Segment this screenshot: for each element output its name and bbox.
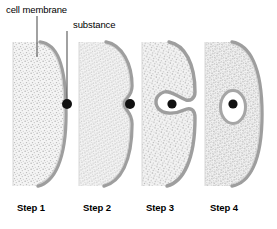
substance-particle-step-3 <box>167 99 176 108</box>
cell-step-4 <box>205 42 262 186</box>
step-1-caption: Step 1 <box>17 202 45 213</box>
step-4-caption: Step 4 <box>210 202 238 213</box>
step-3-caption: Step 3 <box>146 202 174 213</box>
substance-particle-step-4 <box>228 99 237 108</box>
cell-step-1 <box>13 42 66 186</box>
cell-step-2 <box>79 42 132 186</box>
endocytosis-diagram: cell membrane substance Step 1 Step 2 St… <box>0 0 277 229</box>
cell-step-3 <box>142 42 195 186</box>
step-2-caption: Step 2 <box>83 202 111 213</box>
substance-particle-step-1 <box>62 99 72 109</box>
cell-membrane-label: cell membrane <box>6 4 67 15</box>
substance-label: substance <box>73 19 115 30</box>
substance-particle-step-2 <box>125 99 135 109</box>
diagram-canvas <box>0 0 277 229</box>
